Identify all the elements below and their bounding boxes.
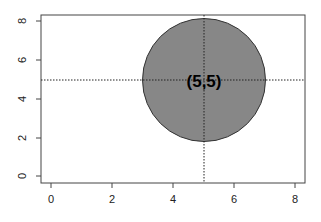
x-tick-label: 2 [109,193,115,205]
chart: (5,5) 0 2 4 6 8 0 2 4 6 8 [0,0,321,222]
y-tick-label: 8 [16,18,28,24]
point-label: (5,5) [187,72,222,91]
x-tick-label: 6 [231,193,237,205]
x-tick-label: 8 [292,193,298,205]
y-axis [36,21,41,176]
x-tick-label: 4 [170,193,176,205]
y-tick-label: 4 [16,96,28,102]
y-tick-label: 6 [16,57,28,63]
x-tick-label: 0 [48,193,54,205]
y-tick-label: 2 [16,135,28,141]
x-axis [51,183,295,188]
y-tick-label: 0 [16,173,28,179]
